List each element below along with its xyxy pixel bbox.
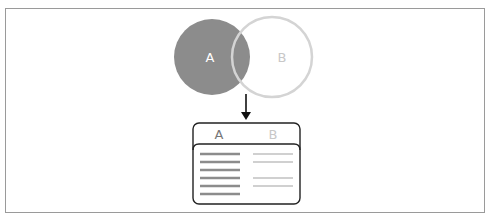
table-header-a: A [215,127,224,142]
down-arrow-icon [241,94,251,120]
result-table [193,123,300,204]
circle-b-label: B [278,50,287,65]
circle-a-label: A [206,50,215,65]
venn-diagram [0,0,491,218]
table-header-b: B [269,127,278,142]
